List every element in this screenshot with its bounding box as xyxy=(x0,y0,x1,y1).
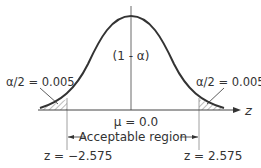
left-tail-label: α/2 = 0.005 xyxy=(6,75,75,89)
region-arrow-right-head xyxy=(192,135,198,139)
right-tail-label: α/2 = 0.005 xyxy=(196,75,261,89)
region-label: Acceptable region xyxy=(79,130,187,144)
left-critical-label: z = −2.575 xyxy=(44,149,112,163)
region-arrow-left-head xyxy=(68,135,74,139)
z-axis-arrowhead xyxy=(233,107,241,113)
center-label: (1 - α) xyxy=(113,49,150,63)
normal-distribution-diagram: (1 - α) α/2 = 0.005 α/2 = 0.005 μ = 0.0 … xyxy=(0,0,261,168)
right-critical-label: z = 2.575 xyxy=(184,149,242,163)
z-axis-label: z xyxy=(244,103,253,118)
right-tail-pointer xyxy=(207,88,224,104)
mean-label: μ = 0.0 xyxy=(114,115,158,129)
left-tail-shaded-area xyxy=(40,99,67,110)
left-tail-pointer xyxy=(40,88,58,104)
